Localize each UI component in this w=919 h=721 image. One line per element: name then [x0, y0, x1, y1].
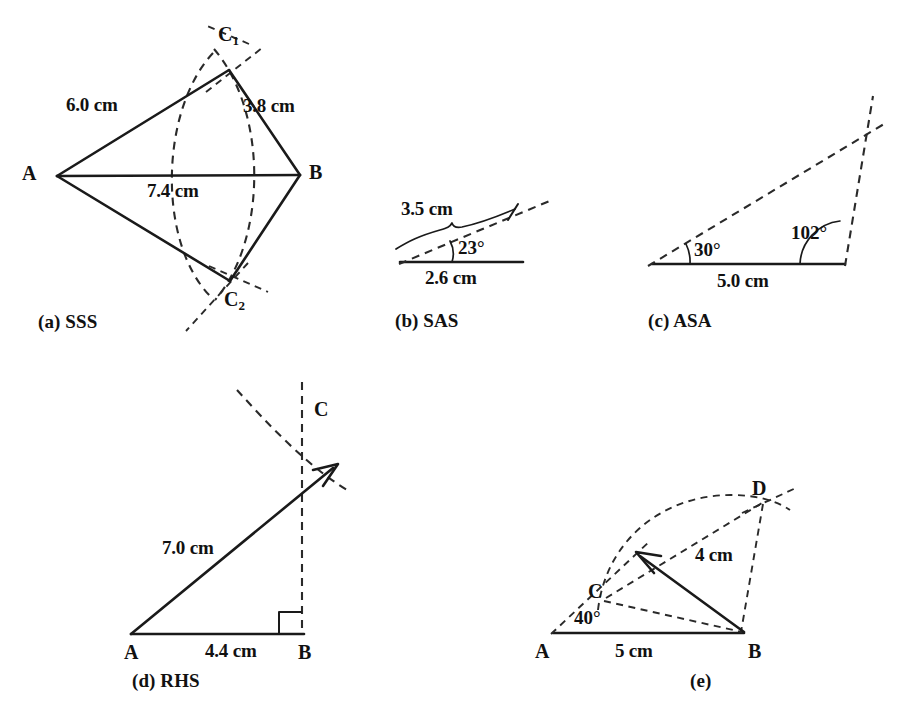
segment-d-b — [741, 504, 763, 632]
construction-diagrams-canvas — [0, 0, 919, 721]
segment-c2-b — [230, 175, 300, 281]
point-label-a-fig-a: A — [22, 163, 36, 183]
segment-a-b — [57, 175, 300, 176]
figure-c-asa — [648, 96, 884, 266]
point-label-d-fig-e: D — [752, 478, 766, 498]
dimension-4p4cm: 4.4 cm — [205, 641, 257, 660]
segment-c1-b — [229, 70, 300, 175]
point-label-b-fig-d: B — [298, 642, 311, 662]
dimension-7p0cm: 7.0 cm — [162, 538, 214, 557]
caption-a: (a) SSS — [38, 312, 97, 331]
segment-a-c1 — [57, 70, 229, 176]
dimension-5p0cm: 5.0 cm — [717, 271, 769, 290]
figure-a-sss — [57, 25, 300, 331]
caption-b: (b) SAS — [395, 311, 459, 330]
segment-c-d — [606, 503, 762, 598]
diagram-page: A B C1 C2 6.0 cm 3.8 cm 7.4 cm (a) SSS 3… — [0, 0, 919, 721]
dimension-6cm: 6.0 cm — [66, 95, 118, 114]
arc-cross-c1-right — [206, 48, 262, 92]
point-label-c-fig-d: C — [314, 399, 328, 419]
angle-label-23: 23° — [458, 238, 485, 257]
angle-label-40: 40° — [574, 608, 601, 627]
dimension-3p8cm: 3.8 cm — [243, 96, 295, 115]
angle-arc-30 — [686, 244, 690, 264]
angle-label-30: 30° — [694, 240, 721, 259]
point-label-b-fig-a: B — [309, 162, 322, 182]
point-label-c2-fig-a: C2 — [224, 289, 245, 312]
point-label-c-fig-e: C — [588, 581, 602, 601]
angle-label-102: 102° — [791, 223, 827, 242]
segment-a-c2 — [57, 176, 230, 281]
dimension-7p4cm: 7.4 cm — [147, 181, 199, 200]
caption-c: (c) ASA — [648, 311, 712, 330]
point-label-b-fig-e: B — [748, 641, 761, 661]
arc-centre-b-through-c-d — [598, 495, 790, 610]
point-label-c1-fig-a: C1 — [218, 24, 239, 47]
dimension-4cm: 4 cm — [695, 545, 733, 564]
caption-e: (e) — [690, 671, 711, 690]
caption-d: (d) RHS — [132, 671, 200, 690]
ray-102-degrees — [845, 96, 873, 266]
point-label-a-fig-d: A — [124, 642, 138, 662]
point-label-a-fig-e: A — [535, 641, 549, 661]
subscript-1: 1 — [232, 33, 239, 48]
dimension-5cm: 5 cm — [615, 641, 653, 660]
dimension-3p5cm: 3.5 cm — [401, 199, 453, 218]
subscript-2: 2 — [238, 298, 245, 313]
right-angle-square-b — [279, 612, 301, 634]
angle-arc-23 — [450, 241, 453, 262]
dimension-2p6cm: 2.6 cm — [425, 268, 477, 287]
